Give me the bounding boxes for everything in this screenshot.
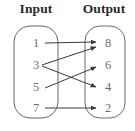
input-node-1: 1 (29, 37, 43, 49)
output-node-4: 4 (101, 81, 115, 93)
output-node-8: 8 (101, 37, 115, 49)
output-node-6: 6 (101, 59, 115, 71)
mapping-arrow-3-to-8 (42, 47, 96, 65)
mapping-arrows-group (42, 42, 96, 108)
mapping-arrow-1-to-8 (45, 42, 96, 43)
function-mapping-diagram: Input Output 13578642 (0, 0, 135, 131)
input-node-5: 5 (29, 81, 43, 93)
input-node-3: 3 (29, 59, 43, 71)
input-node-7: 7 (29, 102, 43, 114)
mapping-arrow-3-to-4 (42, 66, 96, 87)
output-node-2: 2 (101, 102, 115, 114)
